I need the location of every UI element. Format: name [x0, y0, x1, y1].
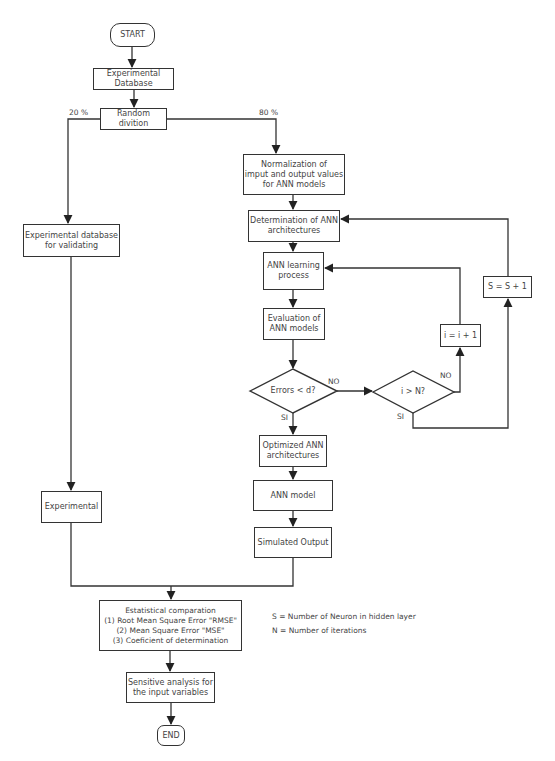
iteration-no-label: NO	[440, 371, 452, 380]
sensitive-analysis-node: Sensitive analysis for the input variabl…	[126, 672, 215, 703]
errors-yes-label: SI	[281, 413, 288, 422]
split-left-label: 20 %	[69, 108, 88, 117]
simulated-output-node: Simulated Output	[254, 527, 332, 558]
determination-node: Determination of ANN architectures	[248, 210, 340, 242]
start-node: START	[110, 23, 155, 47]
i-increment-node: i = i + 1	[440, 324, 481, 347]
experimental-database-node: Experimental Database	[93, 68, 174, 90]
statistical-comparison-node: Estatistical comparation (1) Root Mean S…	[99, 600, 242, 651]
legend-s: S = Number of Neuron in hidden layer	[272, 612, 416, 621]
learning-process-node: ANN learning process	[263, 252, 324, 290]
legend-n: N = Number of iterations	[272, 626, 366, 635]
s-increment-node: S = S + 1	[483, 276, 532, 298]
errors-decision-label: Errors < d?	[258, 386, 328, 396]
normalization-node: Normalization of imput and output values…	[243, 154, 345, 195]
ann-model-node: ANN model	[253, 480, 333, 511]
errors-no-label: NO	[328, 377, 340, 386]
end-node: END	[157, 725, 185, 746]
experimental-node: Experimental	[41, 491, 102, 523]
iteration-yes-label: SI	[397, 412, 404, 421]
iteration-decision-label: i > N?	[383, 387, 443, 397]
split-right-label: 80 %	[259, 108, 278, 117]
validation-database-node: Experimental database for validating	[23, 224, 120, 257]
evaluation-node: Evaluation of ANN models	[263, 308, 325, 340]
random-division-node: Random divition	[100, 108, 167, 130]
optimized-architectures-node: Optimized ANN architectures	[259, 435, 327, 467]
